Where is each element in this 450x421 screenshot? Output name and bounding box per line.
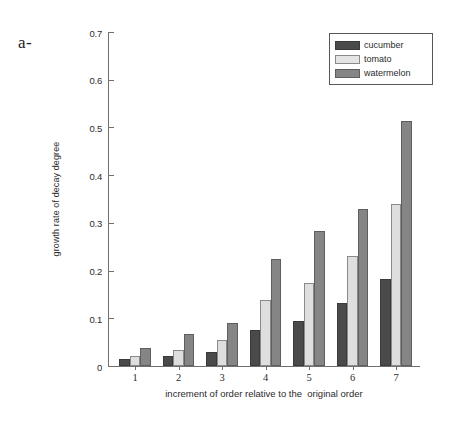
y-tick-label: 0.2 [89, 266, 102, 277]
x-tick [222, 366, 223, 370]
bar-tomato-7 [391, 204, 402, 366]
y-tick-label: 0.1 [89, 313, 102, 324]
y-tick: 0.4 [109, 175, 114, 176]
x-tick-label: 4 [263, 372, 268, 383]
x-tick-label: 5 [306, 372, 311, 383]
x-tick [266, 366, 267, 370]
bar-watermelon-7 [401, 121, 412, 366]
y-tick: 0.6 [109, 80, 114, 81]
x-tick [135, 366, 136, 370]
y-tick: 0.7 [109, 32, 114, 33]
x-tick-label: 1 [132, 372, 137, 383]
bar-tomato-3 [217, 340, 228, 366]
legend-label-tomato: tomato [364, 54, 392, 64]
y-tick-label: 0 [97, 361, 102, 372]
x-tick [396, 366, 397, 370]
bar-tomato-2 [173, 350, 184, 366]
y-tick: 0.2 [109, 271, 114, 272]
bar-cucumber-5 [293, 321, 304, 366]
x-tick-label: 7 [393, 372, 398, 383]
y-axis-title: growth rate of decay degree [51, 142, 61, 257]
bar-cucumber-3 [206, 352, 217, 366]
bar-tomato-5 [304, 283, 315, 367]
bar-watermelon-6 [358, 209, 369, 366]
bar-watermelon-2 [184, 334, 195, 366]
y-tick: 0.5 [109, 127, 114, 128]
x-tick [179, 366, 180, 370]
y-tick-label: 0.7 [89, 27, 102, 38]
y-tick-label: 0.4 [89, 170, 102, 181]
bar-tomato-1 [130, 356, 141, 366]
chart-legend: cucumbertomatowatermelon [329, 33, 433, 85]
bar-cucumber-6 [337, 303, 348, 366]
bar-tomato-6 [347, 256, 358, 366]
panel-label: a- [18, 33, 32, 53]
x-tick-label: 3 [219, 372, 224, 383]
legend-item-cucumber[interactable]: cucumber [335, 38, 428, 52]
bar-watermelon-5 [314, 231, 325, 366]
bar-cucumber-4 [250, 330, 261, 366]
x-tick-label: 2 [176, 372, 181, 383]
bar-cucumber-7 [380, 279, 391, 366]
bar-watermelon-4 [271, 259, 282, 366]
y-tick-label: 0.5 [89, 122, 102, 133]
bar-cucumber-1 [119, 359, 130, 366]
x-tick-label: 6 [350, 372, 355, 383]
y-tick: 0.3 [109, 223, 114, 224]
y-tick-label: 0.6 [89, 75, 102, 86]
bar-tomato-4 [260, 300, 271, 366]
y-tick: 0.1 [109, 318, 114, 319]
legend-item-tomato[interactable]: tomato [335, 52, 428, 66]
bar-chart-figure: a- growth rate of decay degree increment… [0, 0, 450, 421]
bar-watermelon-1 [140, 348, 151, 366]
y-tick-label: 0.3 [89, 218, 102, 229]
legend-label-cucumber: cucumber [364, 40, 404, 50]
legend-swatch-tomato [335, 55, 360, 64]
legend-swatch-cucumber [335, 41, 360, 50]
x-tick [353, 366, 354, 370]
bar-cucumber-2 [163, 356, 174, 366]
x-axis-line [108, 366, 420, 367]
y-tick: 0 [109, 366, 114, 367]
y-axis-line [108, 32, 109, 366]
legend-swatch-watermelon [335, 69, 360, 78]
x-axis-title: increment of order relative to the origi… [165, 388, 363, 399]
legend-label-watermelon: watermelon [364, 68, 411, 78]
bar-watermelon-3 [227, 323, 238, 366]
x-tick [309, 366, 310, 370]
legend-item-watermelon[interactable]: watermelon [335, 66, 428, 80]
